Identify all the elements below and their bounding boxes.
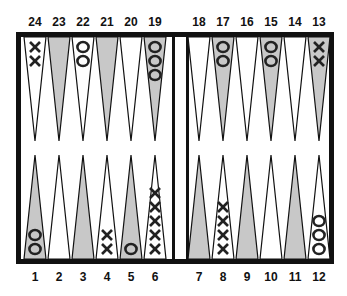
point-5[interactable] [119, 154, 143, 259]
point-triangle [47, 154, 71, 259]
point-triangle [283, 154, 307, 259]
point-label-16: 16 [235, 15, 259, 29]
point-label-22: 22 [71, 15, 95, 29]
point-23[interactable] [47, 37, 71, 142]
point-label-13: 13 [307, 15, 331, 29]
x-checker-icon[interactable] [100, 242, 114, 256]
point-label-4: 4 [95, 270, 119, 284]
x-checker-icon[interactable] [312, 54, 326, 68]
point-label-10: 10 [259, 270, 283, 284]
point-label-3: 3 [71, 270, 95, 284]
point-triangle [187, 154, 211, 259]
o-checker-icon[interactable] [264, 54, 278, 68]
point-triangle [235, 37, 259, 142]
point-19[interactable] [143, 37, 167, 142]
point-18[interactable] [187, 37, 211, 142]
o-checker-icon[interactable] [148, 68, 162, 82]
point-label-8: 8 [211, 270, 235, 284]
x-checker-icon[interactable] [216, 242, 230, 256]
point-label-17: 17 [211, 15, 235, 29]
x-checker-icon[interactable] [100, 228, 114, 242]
point-3[interactable] [71, 154, 95, 259]
point-triangle [71, 154, 95, 259]
point-22[interactable] [71, 37, 95, 142]
point-label-24: 24 [23, 15, 47, 29]
bar-left-edge [172, 37, 175, 259]
point-label-14: 14 [283, 15, 307, 29]
point-triangle [259, 154, 283, 259]
o-checker-icon[interactable] [28, 228, 42, 242]
o-checker-icon[interactable] [312, 228, 326, 242]
point-4[interactable] [95, 154, 119, 259]
point-7[interactable] [187, 154, 211, 259]
o-checker-icon[interactable] [76, 40, 90, 54]
x-checker-icon[interactable] [148, 214, 162, 228]
point-triangle [187, 37, 211, 142]
point-10[interactable] [259, 154, 283, 259]
x-checker-icon[interactable] [312, 40, 326, 54]
point-triangle [95, 37, 119, 142]
o-checker-icon[interactable] [216, 54, 230, 68]
point-9[interactable] [235, 154, 259, 259]
x-checker-icon[interactable] [28, 40, 42, 54]
x-checker-icon[interactable] [216, 228, 230, 242]
x-checker-icon[interactable] [148, 186, 162, 200]
point-label-15: 15 [259, 15, 283, 29]
o-checker-icon[interactable] [312, 242, 326, 256]
point-label-19: 19 [143, 15, 167, 29]
point-11[interactable] [283, 154, 307, 259]
point-label-11: 11 [283, 270, 307, 284]
point-label-6: 6 [143, 270, 167, 284]
point-16[interactable] [235, 37, 259, 142]
x-checker-icon[interactable] [148, 228, 162, 242]
x-checker-icon[interactable] [148, 242, 162, 256]
point-label-9: 9 [235, 270, 259, 284]
o-checker-icon[interactable] [148, 40, 162, 54]
o-checker-icon[interactable] [76, 54, 90, 68]
point-8[interactable] [211, 154, 235, 259]
x-checker-icon[interactable] [216, 200, 230, 214]
point-triangle [47, 37, 71, 142]
point-triangle [119, 37, 143, 142]
backgammon-board [16, 32, 334, 264]
point-2[interactable] [47, 154, 71, 259]
point-label-20: 20 [119, 15, 143, 29]
o-checker-icon[interactable] [28, 242, 42, 256]
x-checker-icon[interactable] [148, 200, 162, 214]
o-checker-icon[interactable] [124, 242, 138, 256]
point-triangle [235, 154, 259, 259]
point-6[interactable] [143, 154, 167, 259]
point-label-18: 18 [187, 15, 211, 29]
point-13[interactable] [307, 37, 331, 142]
x-checker-icon[interactable] [28, 54, 42, 68]
o-checker-icon[interactable] [216, 40, 230, 54]
point-label-5: 5 [119, 270, 143, 284]
point-24[interactable] [23, 37, 47, 142]
point-triangle [283, 37, 307, 142]
point-label-23: 23 [47, 15, 71, 29]
o-checker-icon[interactable] [148, 54, 162, 68]
point-20[interactable] [119, 37, 143, 142]
point-1[interactable] [23, 154, 47, 259]
point-15[interactable] [259, 37, 283, 142]
point-label-1: 1 [23, 270, 47, 284]
point-label-12: 12 [307, 270, 331, 284]
point-label-2: 2 [47, 270, 71, 284]
point-17[interactable] [211, 37, 235, 142]
o-checker-icon[interactable] [312, 214, 326, 228]
point-14[interactable] [283, 37, 307, 142]
point-label-7: 7 [187, 270, 211, 284]
point-12[interactable] [307, 154, 331, 259]
x-checker-icon[interactable] [216, 214, 230, 228]
point-21[interactable] [95, 37, 119, 142]
point-label-21: 21 [95, 15, 119, 29]
o-checker-icon[interactable] [264, 40, 278, 54]
